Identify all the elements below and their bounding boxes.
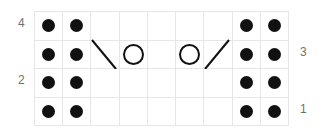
stitch-cell-r3-c6[interactable] bbox=[176, 41, 204, 70]
purl-dot-icon bbox=[63, 12, 90, 40]
stitch-cell-r2-c8[interactable] bbox=[233, 69, 261, 98]
knit-blank bbox=[148, 69, 175, 97]
stitch-cell-r1-c8[interactable] bbox=[233, 98, 261, 127]
stitch-cell-r1-c3[interactable] bbox=[91, 98, 119, 127]
stitch-cell-r3-c3[interactable] bbox=[91, 41, 119, 70]
knit-blank bbox=[148, 12, 175, 40]
purl-dot-icon bbox=[63, 41, 90, 69]
knit-blank bbox=[204, 12, 231, 40]
stitch-grid bbox=[34, 11, 289, 126]
stitch-cell-r2-c5[interactable] bbox=[148, 69, 176, 98]
stitch-cell-r2-c4[interactable] bbox=[120, 69, 148, 98]
purl-dot-icon bbox=[35, 12, 62, 40]
stitch-cell-r1-c6[interactable] bbox=[176, 98, 204, 127]
knit-blank bbox=[91, 69, 118, 97]
knit-blank bbox=[91, 98, 118, 126]
stitch-cell-r2-c3[interactable] bbox=[91, 69, 119, 98]
purl-dot-icon bbox=[261, 12, 288, 40]
stitch-cell-r3-c5[interactable] bbox=[148, 41, 176, 70]
knit-blank bbox=[120, 69, 147, 97]
knit-blank bbox=[176, 98, 203, 126]
row-label-left-2: 2 bbox=[18, 74, 25, 86]
stitch-cell-r3-c1[interactable] bbox=[35, 41, 63, 70]
stitch-cell-r1-c1[interactable] bbox=[35, 98, 63, 127]
stitch-cell-r4-c2[interactable] bbox=[63, 12, 91, 41]
stitch-cell-r4-c6[interactable] bbox=[176, 12, 204, 41]
stitch-cell-r4-c3[interactable] bbox=[91, 12, 119, 41]
stitch-cell-r1-c9[interactable] bbox=[261, 98, 289, 127]
knit-blank bbox=[204, 98, 231, 126]
stitch-cell-r2-c1[interactable] bbox=[35, 69, 63, 98]
knit-blank bbox=[120, 12, 147, 40]
purl-dot-icon bbox=[233, 98, 260, 126]
purl-dot-icon bbox=[261, 69, 288, 97]
stitch-cell-r2-c2[interactable] bbox=[63, 69, 91, 98]
purl-dot-icon bbox=[233, 69, 260, 97]
purl-dot-icon bbox=[261, 98, 288, 126]
knit-blank bbox=[148, 41, 175, 69]
stitch-cell-r4-c5[interactable] bbox=[148, 12, 176, 41]
row-label-right-3: 3 bbox=[300, 46, 307, 58]
stitch-cell-r4-c9[interactable] bbox=[261, 12, 289, 41]
stitch-cell-r3-c7[interactable] bbox=[204, 41, 232, 70]
slash-decrease-icon bbox=[204, 41, 231, 69]
knit-blank bbox=[204, 69, 231, 97]
knit-blank bbox=[91, 12, 118, 40]
stitch-cell-r3-c9[interactable] bbox=[261, 41, 289, 70]
stitch-cell-r3-c4[interactable] bbox=[120, 41, 148, 70]
purl-dot-icon bbox=[35, 69, 62, 97]
backslash-decrease-icon bbox=[91, 41, 118, 69]
purl-dot-icon bbox=[63, 98, 90, 126]
stitch-cell-r4-c4[interactable] bbox=[120, 12, 148, 41]
stitch-cell-r4-c1[interactable] bbox=[35, 12, 63, 41]
purl-dot-icon bbox=[233, 12, 260, 40]
stitch-cell-r4-c7[interactable] bbox=[204, 12, 232, 41]
stitch-cell-r4-c8[interactable] bbox=[233, 12, 261, 41]
knit-blank bbox=[120, 98, 147, 126]
knit-blank bbox=[176, 69, 203, 97]
stitch-cell-r1-c2[interactable] bbox=[63, 98, 91, 127]
row-label-right-1: 1 bbox=[300, 103, 307, 115]
stitch-cell-r3-c2[interactable] bbox=[63, 41, 91, 70]
stitch-cell-r3-c8[interactable] bbox=[233, 41, 261, 70]
yarn-over-circle-icon bbox=[176, 41, 203, 69]
stitch-cell-r2-c7[interactable] bbox=[204, 69, 232, 98]
purl-dot-icon bbox=[233, 41, 260, 69]
stitch-cell-r2-c6[interactable] bbox=[176, 69, 204, 98]
stitch-cell-r1-c5[interactable] bbox=[148, 98, 176, 127]
purl-dot-icon bbox=[35, 98, 62, 126]
knit-blank bbox=[176, 12, 203, 40]
purl-dot-icon bbox=[35, 41, 62, 69]
knitting-chart: 4 2 3 1 bbox=[0, 0, 323, 133]
yarn-over-circle-icon bbox=[120, 41, 147, 69]
stitch-cell-r1-c7[interactable] bbox=[204, 98, 232, 127]
stitch-cell-r2-c9[interactable] bbox=[261, 69, 289, 98]
purl-dot-icon bbox=[63, 69, 90, 97]
stitch-cell-r1-c4[interactable] bbox=[120, 98, 148, 127]
purl-dot-icon bbox=[261, 41, 288, 69]
knit-blank bbox=[148, 98, 175, 126]
row-label-left-4: 4 bbox=[18, 17, 25, 29]
